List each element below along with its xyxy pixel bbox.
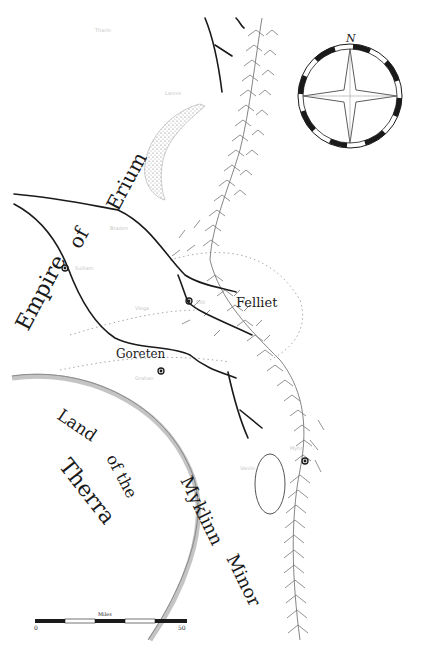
svg-text:Braden: Braden <box>110 225 128 231</box>
map-canvas: Sulliam Braden Vlega Ellit Grahan Myhr V… <box>0 0 440 648</box>
svg-text:Tharin: Tharin <box>94 27 111 33</box>
river-north-fork <box>205 18 222 92</box>
label-minor: Minor <box>222 551 265 610</box>
svg-text:Sulliam: Sulliam <box>75 265 94 271</box>
scale-start: 0 <box>34 624 38 631</box>
svg-text:Myhr: Myhr <box>290 445 303 452</box>
compass-rose: N <box>298 32 402 148</box>
svg-text:Ellit: Ellit <box>196 299 205 305</box>
label-myklinn: Myklinn <box>176 473 228 549</box>
label-goreten: Goreten <box>116 347 166 361</box>
svg-text:Vlega: Vlega <box>135 305 149 312</box>
label-land: Land <box>54 405 101 446</box>
label-empire: Empire <box>10 251 70 335</box>
label-empire-of: of <box>63 223 94 253</box>
forest <box>145 104 205 200</box>
svg-text:Vanlin: Vanlin <box>240 465 255 471</box>
label-felliet: Felliet <box>236 295 278 310</box>
scale-end: 50 <box>178 624 186 631</box>
svg-text:Grahan: Grahan <box>135 375 153 381</box>
scale-title: Miles <box>98 611 112 617</box>
compass-north-label: N <box>345 32 356 45</box>
lake <box>255 454 285 514</box>
label-of-the: of the <box>102 451 141 501</box>
label-erium: Erium <box>101 148 152 214</box>
svg-text:Lannis: Lannis <box>165 90 182 96</box>
